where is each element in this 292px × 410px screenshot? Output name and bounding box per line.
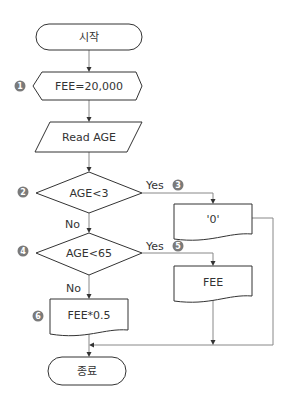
output-zero-document: '0' [174,204,252,240]
start-terminal: 시작 [36,24,142,50]
badge-5: 5 [173,241,184,252]
decision2-no-label: No [66,282,81,295]
input-read-age: Read AGE [35,122,142,152]
output-half-fee-document: FEE*0.5 [50,299,128,336]
svg-text:1: 1 [17,82,23,91]
input-label: Read AGE [62,131,116,144]
svg-text:6: 6 [35,312,41,321]
svg-text:4: 4 [20,247,26,256]
output-fee-label: FEE [203,276,223,289]
badge-2: 2 [18,187,29,198]
decision-age-lt-65: AGE<65 [36,233,142,275]
badge-4: 4 [18,246,29,257]
decision1-yes-label: Yes [145,179,164,192]
svg-text:5: 5 [175,242,181,251]
flowchart: 시작 FEE=20,000 1 Read AGE AGE<3 2 Yes No … [0,0,292,410]
end-label: 종료 [77,365,97,378]
decision-age-lt-3: AGE<3 [36,172,142,213]
badge-3: 3 [173,180,184,191]
svg-text:2: 2 [20,188,26,197]
svg-text:3: 3 [175,181,181,190]
init-label: FEE=20,000 [55,80,123,93]
decision1-no-label: No [65,218,80,231]
output-fee-document: FEE [174,266,252,302]
decision2-label: AGE<65 [66,247,112,260]
badge-1: 1 [15,81,26,92]
start-label: 시작 [79,31,99,44]
init-preparation: FEE=20,000 [33,72,142,100]
output-zero-label: '0' [206,213,219,226]
decision1-label: AGE<3 [69,187,108,200]
badge-6: 6 [33,311,44,322]
decision2-yes-label: Yes [145,240,164,253]
end-terminal: 종료 [48,357,126,385]
output-half-label: FEE*0.5 [67,309,110,322]
